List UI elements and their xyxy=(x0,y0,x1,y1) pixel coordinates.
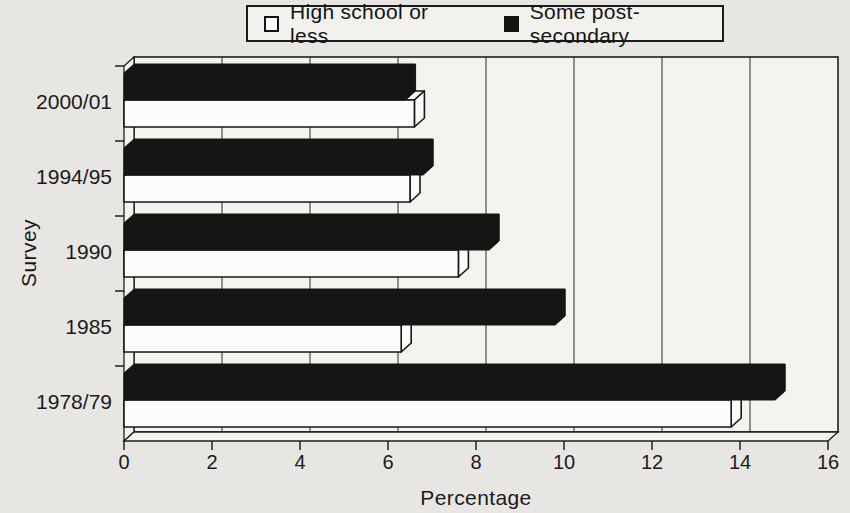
legend-item-high-school: High school or less xyxy=(264,0,458,48)
x-tick-label-4: 4 xyxy=(294,451,305,473)
bar-some-post-secondary-1994-95 xyxy=(124,139,433,175)
legend-item-post-secondary: Some post-secondary xyxy=(504,0,722,48)
x-tick-label-0: 0 xyxy=(118,451,129,473)
category-label-2: 1990 xyxy=(65,240,112,263)
x-tick-label-2: 2 xyxy=(206,451,217,473)
category-label-1: 1994/95 xyxy=(36,165,112,188)
bar-some-post-secondary-1978-79 xyxy=(124,364,785,400)
x-tick-label-6: 6 xyxy=(382,451,393,473)
category-label-4: 1978/79 xyxy=(36,390,112,413)
legend-swatch-black-icon xyxy=(504,16,519,32)
x-tick-label-16: 16 xyxy=(817,451,839,473)
plot-floor xyxy=(124,432,838,441)
category-label-3: 1985 xyxy=(65,315,112,338)
x-tick-label-8: 8 xyxy=(470,451,481,473)
chart-plot: 02468101214162000/011994/95199019851978/… xyxy=(0,0,850,513)
legend-swatch-white-icon xyxy=(264,16,279,32)
bar-high-school-or-less-1994-95 xyxy=(124,175,410,202)
bar-high-school-or-less-1985 xyxy=(124,325,401,352)
category-label-0: 2000/01 xyxy=(36,90,112,113)
x-axis-title: Percentage xyxy=(276,486,676,510)
bar-some-post-secondary-1985 xyxy=(124,289,565,325)
bar-high-school-or-less-1978-79 xyxy=(124,400,731,427)
legend: High school or less Some post-secondary xyxy=(246,5,724,42)
bar-high-school-or-less-2000-01 xyxy=(124,100,414,127)
bar-high-school-or-less-1990 xyxy=(124,250,458,277)
bar-some-post-secondary-1990 xyxy=(124,214,499,250)
x-tick-label-14: 14 xyxy=(729,451,751,473)
bar-some-post-secondary-2000-01 xyxy=(124,64,416,100)
legend-label-post-secondary: Some post-secondary xyxy=(530,0,722,48)
legend-label-high-school: High school or less xyxy=(290,0,458,48)
chart-figure: 02468101214162000/011994/95199019851978/… xyxy=(0,0,850,513)
y-axis-title: Survey xyxy=(17,138,41,368)
x-tick-label-10: 10 xyxy=(553,451,575,473)
x-tick-label-12: 12 xyxy=(641,451,663,473)
